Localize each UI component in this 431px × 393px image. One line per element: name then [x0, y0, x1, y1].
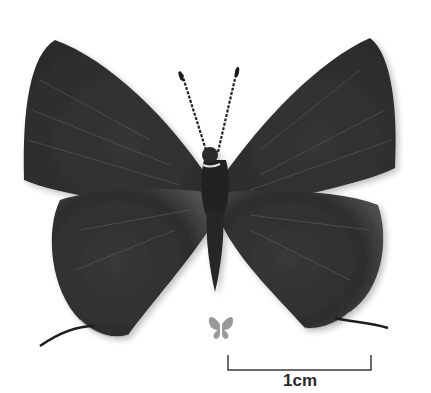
- right-antenna: [218, 70, 237, 152]
- actual-size-butterfly-icon: [209, 317, 233, 339]
- abdomen: [207, 210, 224, 292]
- left-hindwing: [52, 189, 212, 337]
- left-tail: [40, 326, 95, 346]
- left-antenna: [182, 74, 206, 150]
- left-forewing: [24, 40, 208, 210]
- right-tail: [335, 318, 388, 328]
- butterfly-illustration: [0, 0, 431, 393]
- right-forewing: [222, 38, 396, 210]
- specimen-photo: 1cm: [0, 0, 431, 393]
- thorax: [201, 160, 229, 215]
- scale-bar-label: 1cm: [270, 371, 330, 391]
- head: [202, 147, 218, 163]
- right-hindwing: [222, 191, 383, 329]
- scale-bar: [228, 355, 371, 370]
